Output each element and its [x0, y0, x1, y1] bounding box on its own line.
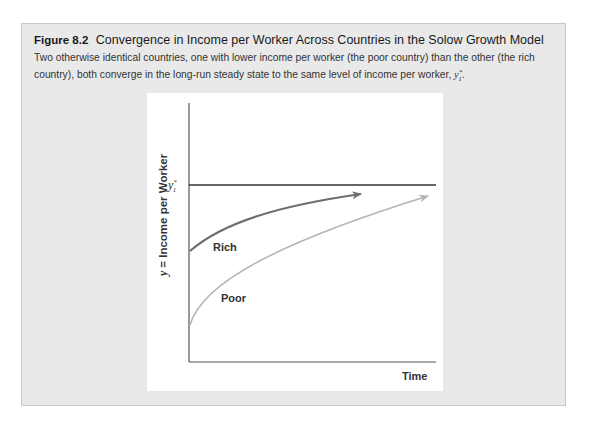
figure-number: Figure 8.2 [34, 34, 88, 46]
x-axis-label: Time [402, 370, 427, 382]
figure-title: Figure 8.2 Convergence in Income per Wor… [34, 33, 544, 47]
caption-math: y*1 [454, 69, 462, 80]
rich-label: Rich [213, 241, 237, 253]
poor-curve [190, 196, 428, 325]
figure-caption: Two otherwise identical countries, one w… [34, 51, 554, 86]
y-axis-label: y = Income per Worker [157, 153, 170, 278]
poor-label: Poor [221, 292, 247, 304]
convergence-chart: Rich Poor Time y*1 y = Income per Worker [147, 93, 443, 391]
figure-title-text: Convergence in Income per Worker Across … [96, 33, 544, 47]
chart-area: Rich Poor Time y*1 y = Income per Worker [147, 93, 443, 391]
